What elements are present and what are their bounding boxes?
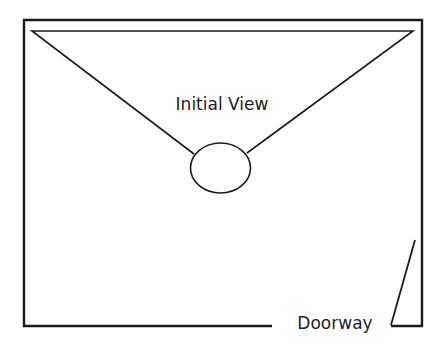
floor-plan-diagram: Initial View Doorway [0, 0, 445, 347]
room-walls [24, 20, 422, 326]
view-cone-label: Initial View [176, 94, 269, 114]
doorway-label: Doorway [297, 313, 372, 333]
viewer-position-ellipse [191, 143, 251, 193]
view-cone [32, 31, 413, 154]
door-leaf [391, 240, 415, 325]
